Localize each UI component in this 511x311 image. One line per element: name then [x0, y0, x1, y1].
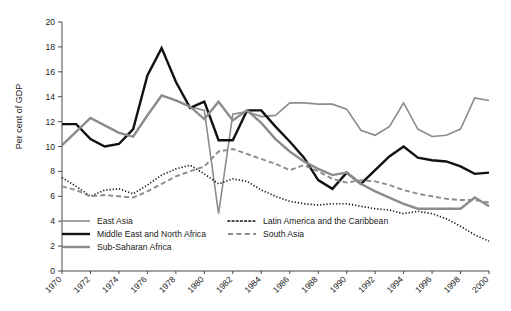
- x-tick-label: 1974: [100, 274, 121, 295]
- y-tick-label: 18: [46, 42, 56, 52]
- y-tick-label: 0: [50, 266, 55, 276]
- x-tick-label: 1996: [413, 274, 434, 295]
- y-tick-label: 14: [46, 92, 56, 102]
- line-chart: 02468101214161820 1970197219741976197819…: [0, 0, 511, 311]
- y-tick-label: 4: [50, 216, 55, 226]
- chart-container: 02468101214161820 1970197219741976197819…: [0, 0, 511, 311]
- x-tick-label: 1978: [157, 274, 178, 295]
- chart-legend: East AsiaMiddle East and North AfricaSub…: [62, 216, 388, 252]
- legend-label-3: Sub-Saharan Africa: [97, 242, 172, 252]
- y-axis-label-text: Per cent of GDP: [14, 84, 24, 150]
- y-axis-title: Per cent of GDP: [14, 84, 24, 150]
- y-tick-label: 2: [50, 241, 55, 251]
- data-series-group: [62, 48, 489, 241]
- x-tick-label: 1986: [271, 274, 292, 295]
- legend-label-5: South Asia: [263, 229, 304, 239]
- legend-label-2: Middle East and North Africa: [97, 229, 206, 239]
- x-tick-label: 1992: [356, 274, 377, 295]
- y-tick-label: 10: [46, 142, 56, 152]
- x-tick-label: 1970: [43, 274, 64, 295]
- x-tick-label: 1994: [385, 274, 406, 295]
- x-axis: 1970197219741976197819801982198419861988…: [43, 271, 491, 295]
- x-tick-label: 1988: [299, 274, 320, 295]
- x-tick-label: 1998: [441, 274, 462, 295]
- x-tick-label: 2000: [470, 274, 491, 295]
- x-tick-label: 1984: [242, 274, 263, 295]
- x-tick-label: 1980: [185, 274, 206, 295]
- series-line-middle-east-and-north-africa: [62, 48, 489, 189]
- y-tick-label: 6: [50, 191, 55, 201]
- x-tick-label: 1976: [128, 274, 149, 295]
- legend-label-4: Latin America and the Caribbean: [263, 216, 388, 226]
- y-tick-label: 12: [46, 117, 56, 127]
- series-line-south-asia: [62, 149, 489, 203]
- x-tick-label: 1972: [71, 274, 92, 295]
- y-tick-label: 16: [46, 67, 56, 77]
- legend-label-1: East Asia: [97, 216, 133, 226]
- y-tick-label: 20: [46, 17, 56, 27]
- y-tick-label: 8: [50, 166, 55, 176]
- y-axis: 02468101214161820: [46, 17, 62, 276]
- x-tick-label: 1990: [328, 274, 349, 295]
- x-tick-label: 1982: [214, 274, 235, 295]
